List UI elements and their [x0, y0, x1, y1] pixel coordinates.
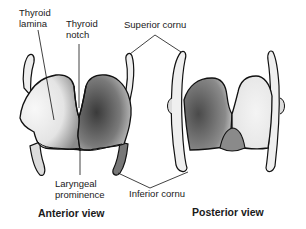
leader-inferior-cornu: [118, 172, 188, 188]
label-superior-cornu: Superior cornu: [124, 20, 186, 31]
label-inferior-cornu: Inferior cornu: [129, 189, 185, 200]
posterior-view: [168, 51, 285, 172]
leader-superior-cornu: [130, 35, 181, 54]
label-thyroid-notch: Thyroid notch: [66, 19, 98, 40]
anterior-right-inferior-cornu: [113, 142, 128, 175]
label-laryngeal-prominence: Laryngeal prominence: [55, 179, 105, 200]
caption-anterior-view: Anterior view: [38, 207, 105, 219]
label-thyroid-lamina: Thyroid lamina: [19, 8, 51, 29]
caption-posterior-view: Posterior view: [192, 206, 264, 218]
anterior-view: [20, 53, 134, 175]
